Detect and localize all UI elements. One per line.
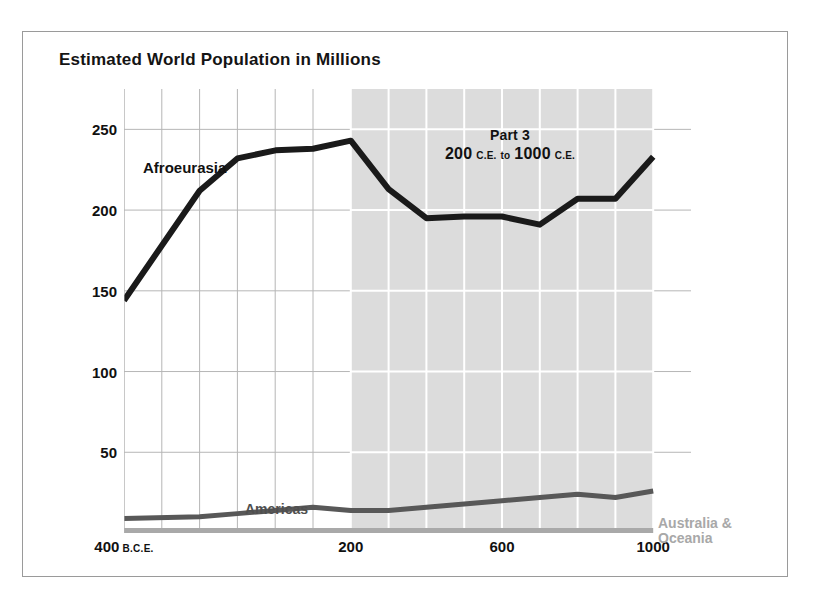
- y-axis-labels: 50100150200250: [53, 89, 117, 533]
- x-axis-labels: 400 B.C.E.2006001000: [124, 538, 691, 572]
- series-label-australia-oceania: Australia & Oceania: [658, 516, 732, 546]
- page-title: Estimated World Population in Millions: [59, 50, 381, 70]
- y-tick-label: 50: [65, 444, 117, 461]
- x-tick-era: B.C.E.: [119, 543, 153, 554]
- series-label-afroeurasia: Afroeurasia: [143, 160, 226, 176]
- x-tick-label: 200: [338, 538, 363, 555]
- y-tick-label: 150: [65, 282, 117, 299]
- y-tick-label: 100: [65, 363, 117, 380]
- series-label-americas: Americas: [245, 502, 308, 517]
- part-range-to: 1000: [514, 145, 550, 162]
- x-tick-year: 600: [489, 538, 514, 555]
- series-label-australia-line2: Oceania: [658, 530, 712, 546]
- part-range-from: 200: [445, 145, 472, 162]
- part-range-joiner: to: [501, 150, 511, 161]
- y-tick-label: 200: [65, 202, 117, 219]
- x-tick-label: 600: [489, 538, 514, 555]
- x-tick-year: 400: [94, 538, 119, 555]
- y-tick-label: 250: [65, 121, 117, 138]
- series-label-australia-line1: Australia &: [658, 515, 732, 531]
- x-tick-label: 400 B.C.E.: [94, 538, 153, 555]
- part-range-from-era: C.E.: [476, 150, 496, 161]
- part-range-to-era: C.E.: [555, 150, 575, 161]
- part-title: Part 3: [375, 127, 645, 143]
- chart-figure: Estimated World Population in Millions 5…: [22, 31, 788, 577]
- highlight-band-annotation: Part 3 200C.E.to1000C.E.: [375, 127, 645, 163]
- x-tick-year: 200: [338, 538, 363, 555]
- part-range: 200C.E.to1000C.E.: [375, 145, 645, 163]
